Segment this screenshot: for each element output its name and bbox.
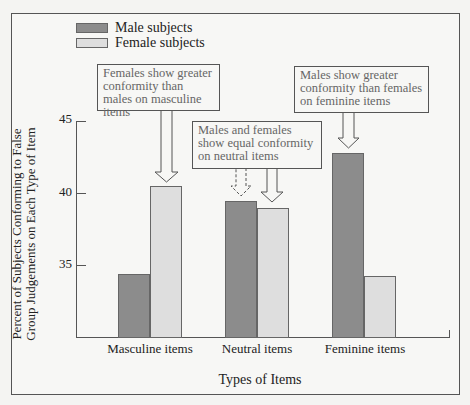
- arrow-down-icon: [231, 168, 251, 196]
- callout-masculine: Females show greater conformity than mal…: [97, 64, 220, 111]
- arrow-down-icon: [261, 168, 283, 202]
- callout-neutral: Males and females show equal conformity …: [192, 121, 322, 169]
- callout-feminine: Males show greater conformity than femal…: [294, 66, 429, 113]
- arrow-down-icon: [155, 110, 178, 182]
- callout-arrows: [0, 0, 470, 405]
- arrow-down-icon: [338, 112, 359, 148]
